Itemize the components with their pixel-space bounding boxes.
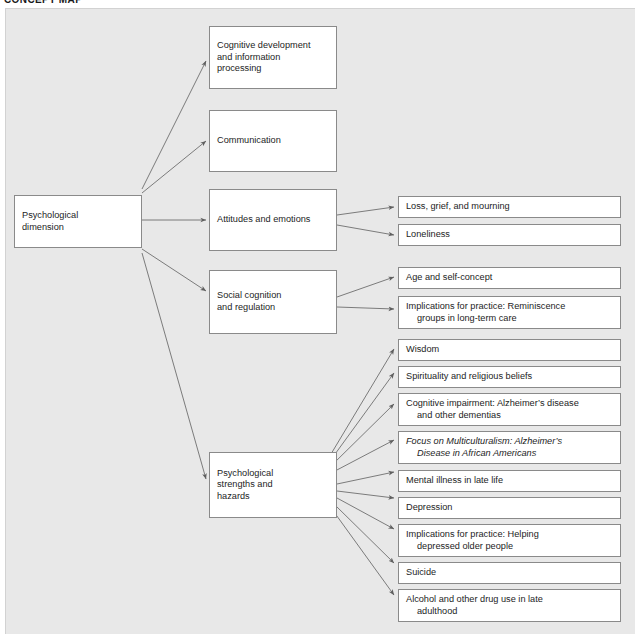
node-label: Spirituality and religious beliefs xyxy=(399,371,620,383)
node-label: Suicide xyxy=(399,567,620,579)
node-label: Loneliness xyxy=(399,229,620,241)
node-label: Mental illness in late life xyxy=(399,475,620,487)
edge-attitudes-loneliness xyxy=(337,225,394,235)
node-label: Wisdom xyxy=(399,344,620,356)
node-focus-multiculturalism[interactable]: Focus on Multiculturalism: Alzheimer’sDi… xyxy=(398,431,621,464)
node-age-and-self-concept[interactable]: Age and self-concept xyxy=(398,267,621,289)
node-loss-grief-mourning[interactable]: Loss, grief, and mourning xyxy=(398,196,621,218)
edge-root-strengths xyxy=(142,253,206,479)
figure-title: CONCEPT MAP xyxy=(4,0,82,5)
node-attitudes-and-emotions[interactable]: Attitudes and emotions xyxy=(209,189,337,251)
node-mental-illness[interactable]: Mental illness in late life xyxy=(398,470,621,492)
node-label: Focus on Multiculturalism: Alzheimer’s xyxy=(406,436,562,446)
edge-strengths-depression xyxy=(337,491,394,498)
node-label-line2: Disease in African Americans xyxy=(406,448,613,460)
node-label: Communication xyxy=(210,135,336,147)
node-label: Depression xyxy=(399,502,620,514)
node-psychological-dimension[interactable]: Psychological dimension xyxy=(14,195,142,248)
node-loneliness[interactable]: Loneliness xyxy=(398,224,621,246)
node-helping-depressed-older-people[interactable]: Implications for practice: Helpingdepres… xyxy=(398,524,621,557)
edge-strengths-focus xyxy=(335,440,394,471)
edge-strengths-wisdom xyxy=(328,349,394,459)
node-label: Social cognition and regulation xyxy=(210,290,336,313)
node-social-cognition[interactable]: Social cognition and regulation xyxy=(209,270,337,334)
node-psychological-strengths-hazards[interactable]: Psychological strengths and hazards xyxy=(209,452,337,518)
node-label-line2: groups in long-term care xyxy=(406,313,613,325)
node-label: Cognitive development and information pr… xyxy=(210,40,336,75)
edge-strengths-mental-illness xyxy=(337,472,394,484)
node-label: Age and self-concept xyxy=(399,272,620,284)
diagram-panel: Psychological dimension Cognitive develo… xyxy=(5,8,635,634)
edge-strengths-spirituality xyxy=(330,373,394,461)
node-communication[interactable]: Communication xyxy=(209,110,337,172)
node-label-line2: adulthood xyxy=(406,606,613,618)
node-label: Implications for practice: Reminiscence xyxy=(406,301,565,311)
node-label: Alcohol and other drug use in late xyxy=(406,594,543,604)
edge-social-reminiscence xyxy=(337,307,394,309)
node-cognitive-development[interactable]: Cognitive development and information pr… xyxy=(209,26,337,89)
node-label: Attitudes and emotions xyxy=(210,214,336,226)
node-spirituality[interactable]: Spirituality and religious beliefs xyxy=(398,366,621,388)
node-label-line2: depressed older people xyxy=(406,541,613,553)
node-label: Implications for practice: Helping xyxy=(406,529,539,539)
edge-attitudes-loss xyxy=(337,207,394,215)
edge-root-social-cognition xyxy=(142,249,206,291)
node-label: Psychological dimension xyxy=(15,210,141,233)
edge-root-communication xyxy=(142,141,206,193)
edge-root-cognitive xyxy=(142,61,206,189)
node-suicide[interactable]: Suicide xyxy=(398,562,621,584)
node-label-line2: and other dementias xyxy=(406,410,613,422)
node-cognitive-impairment[interactable]: Cognitive impairment: Alzheimer’s diseas… xyxy=(398,393,621,426)
node-depression[interactable]: Depression xyxy=(398,497,621,519)
node-reminiscence-groups[interactable]: Implications for practice: Reminiscenceg… xyxy=(398,296,621,329)
node-label: Psychological strengths and hazards xyxy=(210,468,336,503)
edge-social-age xyxy=(337,277,394,297)
node-label: Cognitive impairment: Alzheimer’s diseas… xyxy=(406,398,579,408)
concept-map-figure: CONCEPT MAP xyxy=(0,0,635,634)
edge-strengths-helping xyxy=(337,498,394,529)
node-wisdom[interactable]: Wisdom xyxy=(398,339,621,361)
node-alcohol-drug-use[interactable]: Alcohol and other drug use in lateadulth… xyxy=(398,589,621,622)
node-label: Loss, grief, and mourning xyxy=(399,201,620,213)
